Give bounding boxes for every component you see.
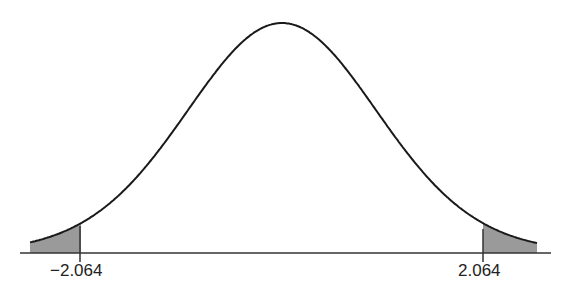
right-critical-label: 2.064 xyxy=(458,261,501,281)
t-distribution-chart xyxy=(0,0,571,298)
left-critical-label: −2.064 xyxy=(50,261,102,281)
density-curve xyxy=(30,23,537,243)
